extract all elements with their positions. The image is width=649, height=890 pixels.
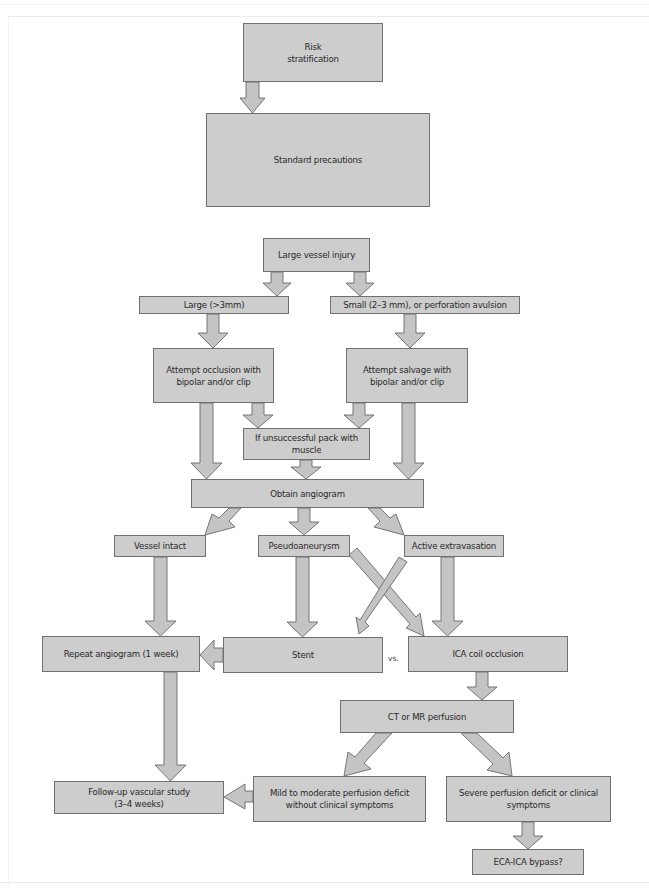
node-label: ECA-ICA bypass? bbox=[493, 856, 562, 868]
node-repeat-angiogram: Repeat angiogram (1 week) bbox=[42, 636, 200, 672]
node-large: Large (>3mm) bbox=[139, 296, 289, 314]
vs-label: vs. bbox=[388, 654, 399, 663]
node-ica-coil-occlusion: ICA coil occlusion bbox=[408, 636, 568, 672]
node-ct-mr-perfusion: CT or MR perfusion bbox=[340, 700, 514, 733]
node-label: Standard precautions bbox=[274, 154, 362, 166]
node-label: Pseudoaneurysm bbox=[268, 540, 339, 552]
arrow-salvage-to-pack bbox=[344, 403, 374, 428]
node-severe-deficit: Severe perfusion deficit or clinical sym… bbox=[446, 776, 611, 822]
arrow-angiogram-to-extrav bbox=[368, 508, 404, 535]
arrow-extrav-to-icacoil bbox=[432, 557, 463, 636]
arrow-angiogram-to-intact bbox=[205, 508, 241, 535]
node-label: CT or MR perfusion bbox=[388, 711, 466, 723]
arrow-pseudo-to-stent bbox=[287, 557, 318, 637]
arrow-salvage-to-angiogram bbox=[393, 403, 424, 479]
node-label: Active extravasation bbox=[412, 540, 496, 552]
node-standard-precautions: Standard precautions bbox=[206, 113, 430, 207]
node-label: Follow-up vascular study (3–4 weeks) bbox=[88, 786, 190, 810]
arrow-severe-to-bypass bbox=[513, 822, 543, 849]
node-label: Severe perfusion deficit or clinical sym… bbox=[459, 787, 598, 811]
node-eca-ica-bypass: ECA-ICA bypass? bbox=[472, 849, 584, 875]
node-vessel-intact: Vessel intact bbox=[114, 535, 206, 557]
node-label: Large vessel injury bbox=[278, 249, 355, 261]
node-followup-vascular-study: Follow-up vascular study (3–4 weeks) bbox=[54, 781, 224, 814]
arrow-occlusion-to-pack bbox=[243, 403, 273, 428]
node-pack-with-muscle: If unsuccessful pack with muscle bbox=[243, 428, 370, 460]
arrow-intact-to-repeat bbox=[145, 557, 176, 636]
node-label: Obtain angiogram bbox=[270, 488, 345, 500]
node-label: Risk stratification bbox=[287, 41, 338, 65]
node-mild-moderate-deficit: Mild to moderate perfusion deficit witho… bbox=[253, 776, 426, 822]
node-label: Large (>3mm) bbox=[184, 299, 245, 311]
arrow-mild-to-followup bbox=[224, 784, 253, 809]
arrow-icacoil-to-perfusion bbox=[467, 672, 497, 700]
arrow-stent-to-repeat bbox=[200, 640, 223, 670]
arrow-repeat-to-followup bbox=[155, 672, 186, 781]
node-label: Vessel intact bbox=[134, 540, 186, 552]
node-label: Attempt occlusion with bipolar and/or cl… bbox=[166, 364, 260, 388]
arrow-perfusion-to-mild bbox=[344, 733, 392, 776]
arrow-occlusion-to-angiogram bbox=[191, 403, 222, 479]
node-label: Small (2–3 mm), or perforation avulsion bbox=[343, 299, 507, 311]
arrow-small-to-salvage bbox=[395, 314, 425, 348]
node-active-extravasation: Active extravasation bbox=[404, 535, 504, 557]
node-large-vessel-injury: Large vessel injury bbox=[263, 238, 370, 272]
node-label: Repeat angiogram (1 week) bbox=[64, 648, 179, 660]
node-stent: Stent bbox=[223, 637, 383, 673]
node-attempt-salvage: Attempt salvage with bipolar and/or clip bbox=[346, 348, 468, 403]
node-risk-stratification: Risk stratification bbox=[243, 23, 383, 82]
arrow-pack-to-angiogram bbox=[291, 460, 321, 479]
arrow-large-to-occlusion bbox=[198, 314, 228, 348]
node-pseudoaneurysm: Pseudoaneurysm bbox=[258, 535, 350, 557]
node-small: Small (2–3 mm), or perforation avulsion bbox=[330, 296, 520, 314]
node-label: Mild to moderate perfusion deficit witho… bbox=[270, 787, 409, 811]
arrow-risk-to-standard bbox=[240, 82, 265, 113]
arrow-angiogram-to-pseudo bbox=[289, 508, 319, 535]
node-obtain-angiogram: Obtain angiogram bbox=[191, 479, 424, 508]
arrow-vessel-to-small bbox=[346, 272, 374, 296]
arrow-vessel-to-large bbox=[263, 272, 291, 296]
node-label: If unsuccessful pack with muscle bbox=[255, 432, 358, 456]
node-label: ICA coil occlusion bbox=[452, 648, 523, 660]
node-label: Stent bbox=[292, 649, 314, 661]
node-label: Attempt salvage with bipolar and/or clip bbox=[363, 364, 451, 388]
arrow-perfusion-to-severe bbox=[461, 733, 512, 776]
node-attempt-occlusion: Attempt occlusion with bipolar and/or cl… bbox=[153, 348, 274, 403]
